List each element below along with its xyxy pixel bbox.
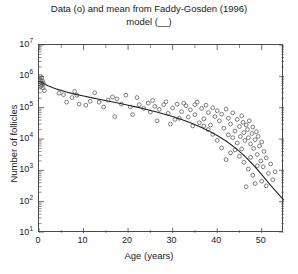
data-point	[73, 90, 77, 94]
data-point	[220, 146, 224, 150]
data-point	[182, 101, 186, 105]
data-point	[264, 184, 268, 188]
data-point	[238, 154, 242, 158]
y-axis-title: Number of follicles	[8, 84, 19, 204]
data-point	[252, 147, 256, 151]
chart-title-line-1: Data (o) and mean from Faddy-Gosden (199…	[0, 2, 298, 15]
y-axis-tick-label: 104	[19, 133, 33, 143]
data-point	[229, 151, 233, 155]
data-point	[213, 115, 217, 119]
data-point	[157, 108, 161, 112]
data-point	[260, 140, 264, 144]
data-point	[262, 150, 266, 154]
data-point	[250, 132, 254, 136]
data-point	[271, 178, 275, 182]
data-point	[240, 147, 244, 151]
data-point	[240, 114, 244, 118]
model-mean-curve	[39, 81, 284, 200]
data-point	[113, 115, 117, 119]
data-point	[124, 93, 128, 97]
data-point	[269, 162, 273, 166]
data-point	[195, 100, 199, 104]
data-point	[193, 103, 197, 107]
data-point	[175, 102, 179, 106]
x-axis-tick-label: 20	[122, 235, 132, 245]
data-point	[115, 97, 119, 101]
data-point	[224, 158, 228, 162]
data-point	[164, 100, 168, 104]
data-point	[153, 104, 157, 108]
x-axis-tick-label: 50	[256, 235, 266, 245]
data-point	[226, 133, 230, 137]
data-point	[215, 109, 219, 113]
x-axis-title: Age (years)	[0, 250, 298, 261]
data-point	[209, 123, 213, 127]
data-point	[238, 125, 242, 129]
data-point	[226, 116, 230, 120]
data-point	[155, 119, 159, 123]
data-point	[247, 119, 251, 123]
plot-svg	[39, 45, 284, 233]
data-point	[169, 122, 173, 126]
data-point	[220, 112, 224, 116]
data-point	[242, 160, 246, 164]
y-axis-tick-label: 103	[19, 164, 33, 174]
data-point	[131, 113, 135, 117]
data-point	[246, 167, 250, 171]
data-point	[255, 164, 259, 168]
data-point	[235, 141, 239, 145]
model-curve-layer	[39, 81, 284, 200]
data-point	[258, 144, 262, 148]
data-point	[261, 165, 265, 169]
data-point	[267, 171, 271, 175]
data-point	[202, 124, 206, 128]
data-point	[102, 105, 106, 109]
data-point	[238, 135, 242, 139]
data-point	[62, 93, 66, 97]
data-point	[206, 111, 210, 115]
data-point	[215, 139, 219, 143]
data-point	[273, 170, 277, 174]
data-point	[251, 173, 255, 177]
data-point	[111, 95, 115, 99]
data-point	[246, 136, 250, 140]
data-point	[235, 118, 239, 122]
x-axis-tick-label: 0	[35, 235, 40, 245]
data-point	[218, 119, 222, 123]
data-point	[186, 115, 190, 119]
figure-container: Data (o) and mean from Faddy-Gosden (199…	[0, 0, 298, 274]
chart-title: Data (o) and mean from Faddy-Gosden (199…	[0, 2, 298, 28]
y-axis-tick-label: 106	[19, 70, 33, 80]
data-point	[202, 117, 206, 121]
data-point	[231, 111, 235, 115]
data-point	[137, 103, 141, 107]
data-point	[259, 159, 263, 163]
data-point	[135, 96, 139, 100]
data-point	[97, 100, 101, 104]
data-point	[249, 155, 253, 159]
data-point	[231, 136, 235, 140]
data-point	[243, 139, 247, 143]
data-point	[204, 103, 208, 107]
data-point	[77, 102, 81, 106]
data-point	[224, 107, 228, 111]
data-point	[93, 91, 97, 95]
data-point	[189, 108, 193, 112]
data-point	[255, 153, 259, 157]
data-point	[249, 142, 253, 146]
data-point	[180, 110, 184, 114]
data-point	[253, 138, 257, 142]
y-axis-tick-labels: 101102103104105106107	[0, 0, 38, 274]
data-point	[171, 106, 175, 110]
x-axis-tick-label: 40	[211, 235, 221, 245]
data-points-layer	[39, 74, 277, 188]
data-point	[256, 135, 260, 139]
chart-title-line-2: model (__)	[0, 15, 298, 28]
y-axis-tick-label: 107	[19, 39, 33, 49]
data-point	[70, 96, 74, 100]
data-point	[251, 125, 255, 129]
x-axis-tick-label: 30	[167, 235, 177, 245]
data-point	[254, 130, 258, 134]
data-point	[253, 182, 257, 186]
data-point	[84, 103, 88, 107]
